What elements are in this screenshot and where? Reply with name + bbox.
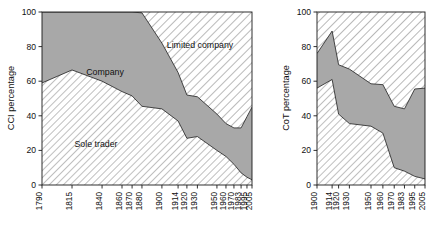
y-tick-label: 40 [301,111,311,121]
cot-plot-area [317,12,425,185]
cci-label-sole-trader: Sole trader [74,139,117,149]
x-tick-label: 1970 [387,192,396,211]
cci-label-company: Company [86,67,124,77]
x-tick-label: 1900 [155,192,164,211]
cot-x-axis-ticks: 1900191419201930195019601970198319952005 [310,185,427,210]
x-tick-label: 1950 [364,192,373,211]
cot-y-axis-title: CoT percentage [281,65,291,131]
y-tick-label: 80 [301,42,311,52]
x-tick-label: 1920 [332,192,341,211]
y-tick-label: 100 [22,7,37,17]
x-tick-label: 1960 [376,192,385,211]
x-tick-label: 1950 [210,192,219,211]
x-tick-label: 1900 [310,192,319,211]
cci-y-axis-title: CCI percentage [6,66,16,130]
x-tick-label: 1995 [408,192,417,211]
x-tick-label: 2005 [418,192,427,211]
x-tick-label: 1930 [190,192,199,211]
x-tick-label: 1790 [35,192,44,211]
y-tick-label: 80 [26,42,36,52]
charts-svg: 020406080100 179018151840186018701880190… [0,0,437,234]
y-tick-label: 40 [26,111,36,121]
x-tick-label: 1914 [171,192,180,211]
x-tick-label: 2005 [245,192,254,211]
x-tick-label: 1880 [135,192,144,211]
y-tick-label: 0 [31,180,36,190]
cci-x-axis-ticks: 1790181518401860187018801900191419201930… [35,185,254,210]
y-tick-label: 20 [26,145,36,155]
y-tick-label: 60 [26,76,36,86]
x-tick-label: 1920 [180,192,189,211]
cci-label-limited-company: Limited company [167,40,234,50]
x-tick-label: 1870 [125,192,134,211]
cot-y-axis-ticks: 020406080100 [297,7,317,190]
y-tick-label: 20 [301,145,311,155]
chart-cot: 020406080100 190019141920193019501960197… [281,7,427,210]
y-tick-label: 0 [306,180,311,190]
figure-container: 020406080100 179018151840186018701880190… [0,0,437,234]
cci-y-axis-ticks: 020406080100 [22,7,42,190]
cci-plot-area [42,12,252,185]
chart-cci: 020406080100 179018151840186018701880190… [6,7,254,210]
x-tick-label: 1840 [95,192,104,211]
y-tick-label: 60 [301,76,311,86]
x-tick-label: 1815 [65,192,74,211]
x-tick-label: 1860 [115,192,124,211]
y-tick-label: 100 [297,7,312,17]
x-tick-label: 1930 [342,192,351,211]
x-tick-label: 1983 [397,192,406,211]
